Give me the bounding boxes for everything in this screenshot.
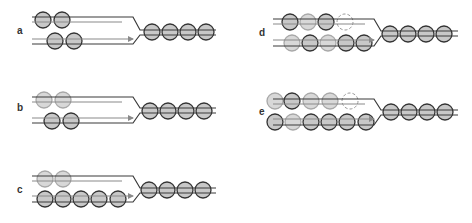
nucleosome-top	[267, 93, 283, 109]
nucleosome-diagram: abcde	[0, 0, 472, 223]
nucleosome-top	[342, 93, 358, 109]
nucleosome-top	[300, 14, 316, 30]
nucleosome-merged	[419, 104, 435, 120]
nucleosome-bottom	[47, 33, 63, 49]
nucleosome-merged	[400, 26, 416, 42]
nucleosome-merged	[198, 24, 214, 40]
nucleosome-top	[303, 93, 319, 109]
nucleosome-bottom	[338, 35, 354, 51]
nucleosome-merged	[418, 26, 434, 42]
nucleosome-bottom	[55, 191, 71, 207]
nucleosome-top	[318, 14, 334, 30]
nucleosome-top	[322, 93, 338, 109]
nucleosome-bottom	[285, 114, 301, 130]
nucleosome-merged	[437, 104, 453, 120]
nucleosome-top	[337, 14, 353, 30]
nucleosome-merged	[436, 26, 452, 42]
nucleosome-merged	[196, 103, 212, 119]
nucleosome-merged	[180, 24, 196, 40]
nucleosome-bottom	[37, 191, 53, 207]
panel-label: b	[17, 102, 23, 113]
nucleosome-merged	[144, 24, 160, 40]
nucleosome-bottom	[63, 113, 79, 129]
nucleosome-top	[36, 92, 52, 108]
panel-c: c	[17, 171, 216, 207]
nucleosome-merged	[159, 182, 175, 198]
nucleosome-merged	[162, 24, 178, 40]
panel-a: a	[17, 12, 216, 49]
nucleosome-bottom	[91, 191, 107, 207]
nucleosome-merged	[382, 26, 398, 42]
nucleosome-bottom	[267, 114, 283, 130]
nucleosome-bottom	[320, 35, 336, 51]
nucleosome-bottom	[302, 35, 318, 51]
nucleosome-merged	[177, 182, 193, 198]
panel-label: d	[259, 27, 265, 38]
nucleosome-merged	[195, 182, 211, 198]
panel-label: e	[259, 106, 265, 117]
nucleosome-bottom	[339, 114, 355, 130]
nucleosome-top	[55, 92, 71, 108]
nucleosome-merged	[141, 182, 157, 198]
panel-label: a	[17, 25, 23, 36]
panel-e: e	[259, 93, 458, 130]
nucleosome-bottom	[321, 114, 337, 130]
panel-d: d	[259, 14, 458, 51]
nucleosome-bottom	[356, 35, 372, 51]
nucleosome-top	[55, 171, 71, 187]
nucleosome-bottom	[303, 114, 319, 130]
nucleosome-merged	[160, 103, 176, 119]
nucleosome-top	[35, 12, 51, 28]
nucleosome-bottom	[44, 113, 60, 129]
nucleosome-top	[282, 14, 298, 30]
nucleosome-merged	[142, 103, 158, 119]
nucleosome-bottom	[66, 33, 82, 49]
panels-root: abcde	[17, 12, 458, 207]
panel-label: c	[17, 184, 23, 195]
nucleosome-bottom	[284, 35, 300, 51]
nucleosome-bottom	[110, 191, 126, 207]
nucleosome-merged	[401, 104, 417, 120]
nucleosome-top	[37, 171, 53, 187]
nucleosome-top	[54, 12, 70, 28]
nucleosome-bottom	[358, 114, 374, 130]
panel-b: b	[17, 92, 216, 129]
nucleosome-top	[284, 93, 300, 109]
nucleosome-merged	[383, 104, 399, 120]
nucleosome-bottom	[73, 191, 89, 207]
nucleosome-merged	[178, 103, 194, 119]
